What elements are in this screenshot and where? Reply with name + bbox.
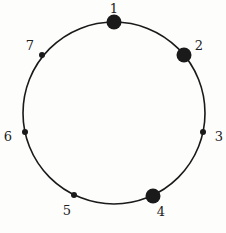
point-1 bbox=[107, 15, 122, 30]
point-label-5: 5 bbox=[63, 203, 71, 218]
point-label-1: 1 bbox=[110, 1, 118, 16]
point-label-7: 7 bbox=[26, 38, 34, 53]
circle-diagram: 1234567 bbox=[0, 0, 226, 233]
point-3 bbox=[200, 129, 206, 135]
point-label-3: 3 bbox=[215, 129, 223, 144]
point-6 bbox=[22, 129, 28, 135]
main-circle bbox=[23, 22, 205, 204]
point-5 bbox=[71, 192, 77, 198]
point-4 bbox=[146, 189, 161, 204]
point-label-4: 4 bbox=[157, 204, 165, 219]
point-2 bbox=[177, 48, 192, 63]
point-7 bbox=[39, 52, 45, 58]
point-label-2: 2 bbox=[195, 38, 203, 53]
point-label-6: 6 bbox=[4, 129, 12, 144]
